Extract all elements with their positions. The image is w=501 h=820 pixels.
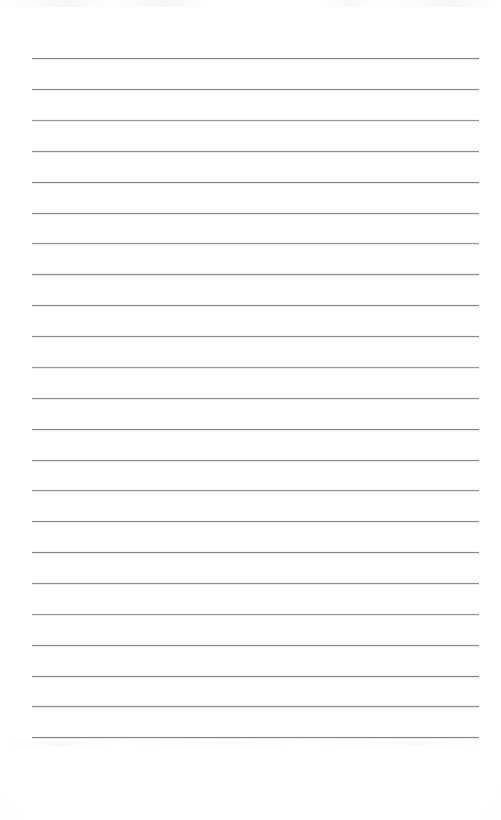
ruled-line (32, 676, 479, 677)
ruled-line (32, 182, 479, 183)
ruled-line (32, 429, 479, 430)
ruled-line (32, 336, 479, 337)
ruled-line (32, 151, 479, 152)
ruled-line (32, 490, 479, 491)
ruled-line (32, 614, 479, 615)
ruled-line (32, 583, 479, 584)
lined-paper-page (0, 0, 501, 820)
ruled-line (32, 645, 479, 646)
ruled-line (32, 243, 479, 244)
ruled-lines-group (0, 0, 501, 820)
ruled-line (32, 706, 479, 707)
ruled-line (32, 305, 479, 306)
ruled-line (32, 552, 479, 553)
ruled-line (32, 367, 479, 368)
ruled-line (32, 89, 479, 90)
ruled-line (32, 213, 479, 214)
ruled-line (32, 120, 479, 121)
ruled-line (32, 737, 479, 738)
ruled-line (32, 274, 479, 275)
ruled-line (32, 460, 479, 461)
ruled-line (32, 58, 479, 59)
ruled-line (32, 398, 479, 399)
ruled-line (32, 521, 479, 522)
